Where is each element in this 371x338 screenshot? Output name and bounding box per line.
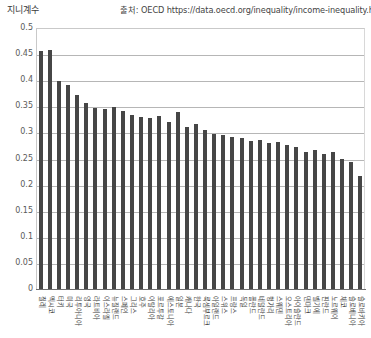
chart-header: 지니계수 출처: OECD https://data.oecd.org/ineq… [0,4,371,20]
y-axis-tick-label: 0.2 [20,181,33,189]
bar [48,50,52,289]
y-axis-tick-label: 0.5 [20,24,33,32]
bar [39,51,43,289]
plot-wrapper: 00.050.10.150.20.250.30.350.40.450.5 칠레멕… [0,22,371,338]
bar [276,142,280,289]
bar [340,159,344,289]
bar [267,143,271,289]
x-axis-tick-label: 일본 [174,296,181,338]
bar [294,147,298,289]
bar [103,109,107,289]
bar [349,162,353,289]
x-axis-tick-label: 네덜란드 [256,296,263,338]
bar [121,111,125,289]
bar [221,135,225,290]
bar [139,117,143,289]
bar [285,145,289,289]
y-axis-tick-label: 0.25 [15,155,33,163]
y-axis-tick-label: 0.3 [20,128,33,136]
bar [84,103,88,289]
x-axis-tick-label: 노르웨이 [330,296,337,338]
x-axis-tick-label: 아이슬란드 [293,296,300,338]
y-axis-tick-label: 0.15 [15,207,33,215]
bar [185,127,189,289]
bar [75,95,79,289]
bar [194,124,198,289]
bar [66,85,70,289]
bar [93,108,97,289]
y-axis-tick-label: 0.05 [15,259,33,267]
x-axis-tick-label: 헝가리 [266,296,273,338]
x-axis-tick-label: 벨기에 [311,296,318,338]
bar [322,154,326,289]
bar [230,137,234,289]
bar [358,176,362,289]
x-axis-tick-label: 스위스 [220,296,227,338]
x-axis-tick-label: 슬로베니아 [348,296,355,338]
y-axis: 00.050.10.150.20.250.30.350.40.450.5 [0,22,36,290]
x-axis-tick-label: 멕시코 [46,296,53,338]
bar [157,116,161,289]
x-axis-tick-label: 폴란드 [247,296,254,338]
bar [304,152,308,289]
bar [130,115,134,289]
x-axis-tick-label: 아일랜드 [211,296,218,338]
y-axis-tick-label: 0.45 [15,50,33,58]
x-axis-tick-label: 핀란드 [320,296,327,338]
x-axis-tick-label: 이탈리아 [147,296,154,338]
x-axis-tick-label: 이스라엘 [101,296,108,338]
x-axis-tick-label: 체코 [339,296,346,338]
bar [331,152,335,289]
bar [258,140,262,289]
x-axis-tick-label: 리투아니아 [74,296,81,338]
bar-series [36,28,365,289]
x-axis-tick-label: 라트비아 [92,296,99,338]
bar [249,141,253,289]
x-axis-tick-label: 스웨덴 [275,296,282,338]
x-axis-tick-label: 호주 [138,296,145,338]
bar [148,118,152,289]
bar [212,134,216,289]
x-axis-tick-label: 룩셈부르크 [202,296,209,338]
x-axis-tick-label: 칠레 [37,296,44,338]
bar [240,138,244,289]
bar [112,107,116,289]
x-axis-tick-label: 그리스 [128,296,135,338]
x-axis-line [36,289,366,290]
x-axis-tick-label: 미국 [64,296,71,338]
x-axis-tick-label: 독일 [238,296,245,338]
x-axis-labels: 칠레멕시코터키미국리투아니아영국라트비아이스라엘뉴질랜드스페인그리스호주이탈리아… [36,296,365,338]
bar [203,130,207,289]
bar [313,150,317,289]
y-axis-tick-label: 0 [28,285,33,293]
source-note: 출처: OECD https://data.oecd.org/inequalit… [120,4,371,17]
x-axis-tick-label: 오스트리아 [284,296,291,338]
x-axis-tick-label: 뉴질랜드 [110,296,117,338]
x-axis-tick-label: 슬로바키아 [357,296,364,338]
x-axis-tick-label: 캐나다 [183,296,190,338]
x-axis-tick-label: 스페인 [119,296,126,338]
x-axis-tick-label: 에스토니아 [165,296,172,338]
bar [167,122,171,289]
page-title: 지니계수 [7,4,39,17]
bar [176,112,180,289]
x-axis-tick-label: 한국 [192,296,199,338]
x-axis-tick-label: 덴마크 [302,296,309,338]
gini-chart-screenshot: 지니계수 출처: OECD https://data.oecd.org/ineq… [0,0,371,338]
y-axis-tick-label: 0.35 [15,102,33,110]
x-axis-tick-label: 영국 [83,296,90,338]
x-axis-tick-label: 프랑스 [229,296,236,338]
y-axis-tick-label: 0.1 [20,233,33,241]
x-axis-tick-label: 터키 [55,296,62,338]
y-axis-tick-label: 0.4 [20,76,33,84]
x-axis-tick-label: 포르투갈 [156,296,163,338]
bar [57,81,61,289]
